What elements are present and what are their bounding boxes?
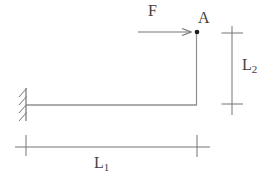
support-hatch-line	[19, 97, 27, 106]
point-a-label: A	[198, 10, 210, 26]
support-hatch-line	[19, 113, 27, 122]
diagram-canvas	[0, 0, 268, 188]
dim-l1-label-subscript: 1	[104, 161, 110, 173]
support-hatch-line	[19, 105, 27, 114]
support-hatch-line	[19, 89, 27, 98]
dim-l1-label: L1	[94, 155, 109, 173]
force-label: F	[148, 3, 157, 19]
point-a-marker	[195, 30, 200, 35]
dim-l2-label: L2	[242, 57, 257, 75]
dim-l1-label-base: L	[94, 154, 104, 171]
dim-l2-label-base: L	[242, 56, 252, 73]
dim-l2-label-subscript: 2	[252, 63, 258, 75]
beam-diagram: F A L1 L2	[0, 0, 268, 188]
